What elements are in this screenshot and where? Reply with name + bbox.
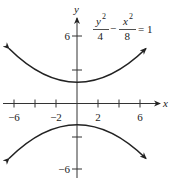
- y-axis-label: y: [73, 3, 79, 15]
- y-tick-label: 6: [65, 30, 71, 42]
- equation-label: y 2 4 − x 2 8 = 1: [93, 12, 152, 42]
- y-tick-label: −6: [58, 163, 70, 175]
- svg-text:y: y: [95, 15, 101, 27]
- x-tick-label: −2: [50, 111, 62, 123]
- hyperbola-plot: −6 −2 2 6 6 −6 x y y 2 4 − x 2 8 = 1: [0, 0, 172, 178]
- x-axis-label: x: [162, 97, 168, 109]
- svg-text:2: 2: [129, 12, 133, 21]
- x-tick-label: 2: [95, 111, 101, 123]
- x-tick-label: −6: [8, 111, 20, 123]
- svg-text:x: x: [122, 15, 128, 27]
- svg-text:−: −: [110, 22, 116, 34]
- svg-text:2: 2: [102, 12, 106, 21]
- svg-text:4: 4: [98, 30, 104, 42]
- svg-text:8: 8: [125, 30, 131, 42]
- x-tick-label: 6: [137, 111, 143, 123]
- svg-text:= 1: = 1: [138, 23, 152, 35]
